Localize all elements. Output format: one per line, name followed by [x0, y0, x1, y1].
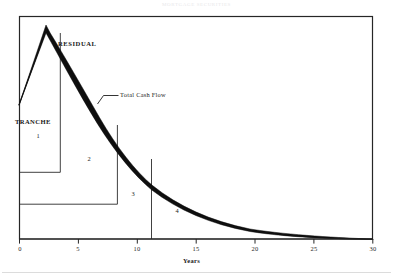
- x-axis-title: Years: [183, 257, 200, 264]
- x-tick-label-0: 0: [14, 245, 26, 252]
- cash-flow-figure: RESIDUAL TRANCHE Total Cash Flow 1 2 3 4…: [0, 0, 393, 279]
- x-tick-label-30: 30: [367, 245, 379, 252]
- total-cash-flow-leader: [98, 96, 119, 105]
- x-tick-label-10: 10: [131, 245, 143, 252]
- tranche-number-1: 1: [33, 132, 43, 139]
- total-cash-flow-curve: [19, 30, 373, 239]
- tranche-label: TRANCHE: [15, 118, 51, 125]
- tranche-number-2: 2: [84, 155, 94, 162]
- x-tick-label-5: 5: [72, 245, 84, 252]
- tranche-number-3: 3: [128, 190, 138, 197]
- plot-frame: [20, 17, 373, 240]
- x-tick-label-25: 25: [308, 245, 320, 252]
- total-cash-flow-label: Total Cash Flow: [120, 91, 166, 98]
- x-axis: [20, 239, 373, 244]
- x-tick-label-20: 20: [249, 245, 261, 252]
- x-tick-label-15: 15: [190, 245, 202, 252]
- residual-label: RESIDUAL: [58, 40, 96, 47]
- total-cash-flow-band: [19, 25, 373, 239]
- tranche-1-region: [20, 33, 61, 172]
- tranche-number-4: 4: [172, 207, 182, 214]
